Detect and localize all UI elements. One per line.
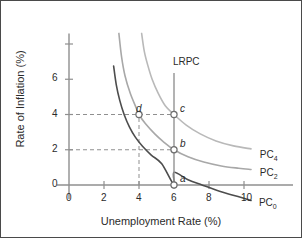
curve-label-PC4: PC4 — [260, 149, 278, 162]
data-point-c[interactable] — [171, 111, 177, 117]
y-tick-label-0: 0 — [52, 178, 58, 189]
y-tick-label-2: 2 — [52, 143, 58, 154]
x-axis-title: Unemployment Rate (%) — [61, 215, 261, 227]
curve-PC4 — [142, 33, 251, 148]
x-tick-label-10: 10 — [241, 192, 252, 203]
phillips-curve-chart — [1, 1, 302, 238]
y-tick-label-4: 4 — [52, 108, 58, 119]
x-tick-label-8: 8 — [206, 192, 212, 203]
figure-frame: Rate of Inflation (%) Unemployment Rate … — [0, 0, 302, 238]
x-tick-label-6: 6 — [171, 192, 177, 203]
curve-label-PC0: PC0 — [259, 197, 277, 210]
data-point-a[interactable] — [171, 182, 177, 188]
point-label-a: a — [180, 173, 186, 184]
data-point-b[interactable] — [171, 147, 177, 153]
y-axis-title: Rate of Inflation (%) — [14, 34, 26, 164]
y-tick-label-6: 6 — [52, 72, 58, 83]
x-tick-label-4: 4 — [136, 192, 142, 203]
x-tick-label-0: 0 — [66, 192, 72, 203]
guide-lines-layer — [69, 115, 174, 186]
point-label-d: d — [136, 103, 142, 114]
x-tick-label-2: 2 — [101, 192, 107, 203]
point-label-b: b — [180, 138, 186, 149]
curve-label-PC2: PC2 — [260, 167, 278, 180]
lrpc-label: LRPC — [173, 56, 200, 67]
point-label-c: c — [180, 103, 185, 114]
